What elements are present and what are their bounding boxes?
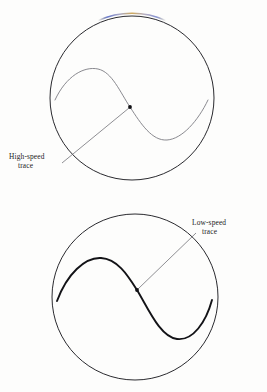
low-speed-trace bbox=[57, 258, 212, 339]
high-speed-trace-label: High-speed trace bbox=[9, 152, 45, 170]
high-speed-marker-dot bbox=[128, 105, 132, 109]
low-speed-leader-line bbox=[138, 233, 196, 289]
high-speed-trace bbox=[55, 68, 208, 140]
low-speed-circle-outline bbox=[52, 214, 218, 380]
high-speed-figure bbox=[50, 13, 214, 180]
low-speed-label-line-1: Low-speed bbox=[192, 218, 226, 227]
low-speed-label-line-2: trace bbox=[192, 227, 226, 236]
high-speed-label-line-2: trace bbox=[9, 161, 45, 170]
speed-trace-diagram bbox=[0, 0, 267, 392]
diagram-page: High-speed trace Low-speed trace bbox=[0, 0, 267, 392]
low-speed-figure bbox=[52, 214, 218, 380]
high-speed-leader-line bbox=[62, 108, 129, 163]
high-speed-circle-outline bbox=[50, 16, 214, 180]
high-speed-label-line-1: High-speed bbox=[9, 152, 45, 161]
low-speed-marker-dot bbox=[135, 288, 139, 292]
low-speed-trace-label: Low-speed trace bbox=[192, 218, 226, 236]
